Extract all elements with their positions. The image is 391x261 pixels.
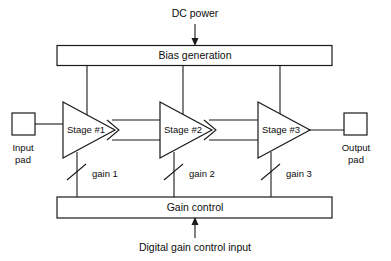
input-pad-label-line2: pad	[15, 154, 31, 165]
dc-power-arrow-icon	[192, 38, 199, 46]
output-pad-label-line1: Output	[342, 142, 371, 153]
gain-control-label: Gain control	[167, 201, 224, 213]
block-diagram: DC power Bias generation Stage #1 Stage …	[0, 0, 391, 261]
gain-2-label: gain 2	[189, 168, 215, 179]
bias-drop-lines	[87, 66, 280, 121]
digital-gain-input-label: Digital gain control input	[139, 241, 251, 253]
digital-gain-input-feed	[192, 217, 199, 238]
gain-1-label: gain 1	[92, 168, 118, 179]
bias-generation-label: Bias generation	[159, 49, 232, 61]
gain-3-label: gain 3	[286, 168, 312, 179]
output-pad-label-line2: pad	[348, 154, 364, 165]
stage-1-label: Stage #1	[67, 124, 105, 135]
input-pad-label-line1: Input	[12, 142, 33, 153]
output-pad-box	[344, 113, 367, 135]
diagram-canvas: DC power Bias generation Stage #1 Stage …	[0, 0, 391, 261]
stage-2-label: Stage #2	[164, 124, 202, 135]
input-pad-box	[12, 113, 35, 135]
stage-3-label: Stage #3	[262, 124, 300, 135]
dc-power-feed	[192, 24, 199, 46]
dc-power-label: DC power	[172, 7, 219, 19]
